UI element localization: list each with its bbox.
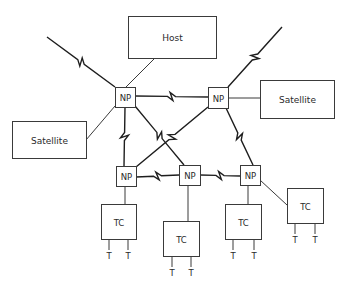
terminals-layer: TTTTTTTT	[105, 223, 318, 278]
node-label: NP	[184, 171, 195, 181]
node-label: TC	[237, 218, 249, 228]
terminal-label: T	[105, 251, 112, 261]
terminal-label: T	[250, 251, 257, 261]
node-tc1: TC	[102, 205, 137, 240]
terminal-label: T	[229, 251, 236, 261]
node-label: NP	[120, 93, 131, 103]
wireless-link-external-np1	[47, 37, 115, 87]
node-label: NP	[213, 94, 224, 104]
wireless-link-np3-np4	[136, 172, 179, 180]
terminal-label: T	[168, 268, 175, 278]
terminal-label: T	[311, 235, 318, 245]
node-label: TC	[299, 202, 311, 212]
terminal: T	[311, 223, 318, 245]
terminal: T	[124, 239, 131, 261]
wireless-link-np2-np5	[226, 108, 253, 165]
node-label: Host	[162, 33, 183, 43]
network-diagram: HostSatelliteSatelliteNPNPNPNPNPTCTCTCTC…	[0, 0, 342, 282]
node-tc3: TC	[226, 205, 262, 240]
wired-link-host-np1	[126, 58, 155, 87]
node-np4: NP	[180, 166, 201, 186]
terminal: T	[229, 239, 236, 261]
node-host: Host	[129, 17, 217, 59]
wireless-link-np4-np5	[200, 172, 240, 180]
node-label: NP	[245, 171, 256, 181]
node-np2: NP	[209, 88, 229, 109]
terminal-label: T	[187, 268, 194, 278]
terminal: T	[187, 256, 194, 278]
terminal-label: T	[291, 235, 298, 245]
wired-link-sat_left-np1	[86, 106, 115, 140]
nodes-layer: HostSatelliteSatelliteNPNPNPNPNPTCTCTCTC	[13, 17, 335, 257]
node-tc2: TC	[164, 222, 200, 257]
node-label: TC	[113, 218, 125, 228]
node-np5: NP	[241, 166, 261, 186]
wireless-link-external-np2	[228, 27, 282, 87]
node-sat_right: Satellite	[261, 81, 335, 119]
wireless-link-np1-np2	[135, 93, 208, 101]
node-np1: NP	[116, 88, 136, 108]
node-np3: NP	[117, 167, 137, 187]
node-sat_left: Satellite	[13, 122, 87, 159]
terminal: T	[105, 239, 112, 261]
node-label: TC	[175, 235, 187, 245]
wireless-link-np2-np3	[136, 107, 208, 167]
terminal: T	[291, 223, 298, 245]
node-label: Satellite	[279, 95, 316, 105]
wireless-link-np1-np4	[135, 106, 184, 165]
wireless-link-np1-np3	[121, 107, 129, 166]
node-label: NP	[121, 172, 132, 182]
node-label: Satellite	[31, 136, 68, 146]
terminal: T	[168, 256, 175, 278]
wired-link-np5-tc4	[260, 180, 287, 205]
terminal-label: T	[124, 251, 131, 261]
node-tc4: TC	[288, 189, 324, 224]
terminal: T	[250, 239, 257, 261]
